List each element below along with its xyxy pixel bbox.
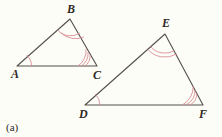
geometry-canvas: A B C D E F <box>0 0 222 137</box>
angle-arc-f-3 <box>182 87 193 105</box>
vertex-label-b: B <box>66 2 75 16</box>
angle-arc-d-1 <box>96 94 100 105</box>
vertex-label-e: E <box>161 16 170 30</box>
angle-arc-e-1 <box>151 47 175 54</box>
geometry-figure: A B C D E F <box>0 0 222 137</box>
angle-arc-f-1 <box>190 93 197 105</box>
triangle-abc-outline <box>17 19 97 66</box>
figure-caption: (a) <box>6 121 19 134</box>
triangle-abc: A B C <box>10 2 102 82</box>
angle-marks-d <box>96 94 100 105</box>
vertex-label-c: C <box>93 68 102 82</box>
triangle-def-outline <box>85 34 203 105</box>
angle-marks-b <box>58 30 84 39</box>
vertex-label-f: F <box>198 107 207 121</box>
vertex-label-a: A <box>10 67 19 81</box>
vertex-label-d: D <box>78 107 88 121</box>
